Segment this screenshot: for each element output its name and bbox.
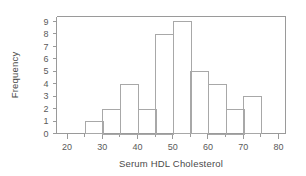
x-tick-label: 20 xyxy=(62,142,72,152)
x-axis-title: Serum HDL Cholesterol xyxy=(119,158,223,169)
y-tick-label: 7 xyxy=(43,42,48,52)
histogram-bar xyxy=(139,110,157,135)
histogram-chart: 012345678920304050607080Serum HDL Choles… xyxy=(0,0,306,176)
x-tick-label: 50 xyxy=(168,142,178,152)
chart-canvas: 012345678920304050607080Serum HDL Choles… xyxy=(0,0,306,176)
y-tick-label: 6 xyxy=(43,54,48,64)
histogram-bar xyxy=(209,85,227,135)
x-tick-label: 30 xyxy=(97,142,107,152)
histogram-bar xyxy=(121,85,139,135)
histogram-bar xyxy=(244,97,262,134)
y-tick-label: 4 xyxy=(43,79,48,89)
y-axis-title: Frequency xyxy=(9,52,20,99)
x-tick-label: 80 xyxy=(273,142,283,152)
y-tick-label: 0 xyxy=(43,129,48,139)
histogram-bar xyxy=(156,35,174,135)
y-tick-label: 3 xyxy=(43,91,48,101)
y-tick-label: 5 xyxy=(43,66,48,76)
histogram-bar xyxy=(191,72,209,134)
histogram-bar xyxy=(86,122,104,134)
x-tick-label: 60 xyxy=(203,142,213,152)
y-tick-label: 2 xyxy=(43,104,48,114)
x-tick-label: 70 xyxy=(238,142,248,152)
y-tick-label: 8 xyxy=(43,29,48,39)
histogram-bar xyxy=(174,22,192,134)
x-tick-label: 40 xyxy=(133,142,143,152)
y-tick-label: 9 xyxy=(43,17,48,27)
histogram-bar xyxy=(227,110,245,135)
histogram-bar xyxy=(103,110,121,135)
y-tick-label: 1 xyxy=(43,116,48,126)
